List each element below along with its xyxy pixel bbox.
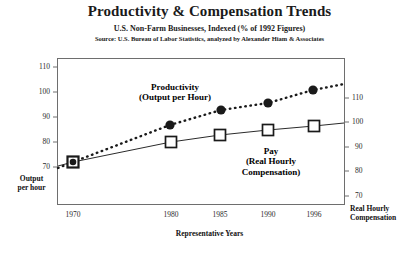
productivity-data-point-overlap (70, 159, 77, 166)
y-axis-caption-left-line2: per hour (9, 184, 54, 193)
y-axis-label-left-110: 110 (24, 62, 50, 71)
y-axis-label-left-100: 100 (24, 87, 50, 96)
productivity-series-label: Productivity (Output per Hour) (112, 82, 238, 103)
productivity-series-label-line2: (Output per Hour) (112, 92, 238, 102)
pay-data-point (263, 125, 274, 136)
y-axis-label-right-110: 110 (352, 93, 363, 102)
productivity-data-point (263, 98, 272, 107)
pay-series-label-line2: (Real Hourly (209, 156, 333, 166)
y-axis-caption-right-line2: Compensation (350, 214, 418, 223)
productivity-data-point (308, 85, 317, 94)
x-axis-label-1970: 1970 (53, 210, 93, 219)
pay-data-point (166, 137, 177, 148)
y-axis-caption-left: Output per hour (9, 175, 54, 192)
x-axis-label-1985: 1985 (200, 210, 240, 219)
y-axis-label-right-100: 100 (352, 117, 363, 126)
productivity-data-point (165, 120, 174, 129)
y-axis-label-right-70: 70 (355, 191, 363, 200)
pay-data-point (215, 130, 226, 141)
pay-data-point (309, 121, 320, 132)
x-axis-label-1980: 1980 (151, 210, 191, 219)
pay-series-label: Pay (Real Hourly Compensation) (209, 146, 333, 177)
x-axis-label-1996: 1996 (294, 210, 334, 219)
y-axis-label-right-90: 90 (355, 142, 363, 151)
y-axis-caption-right: Real Hourly Compensation (350, 205, 418, 222)
y-axis-label-left-70: 70 (24, 162, 50, 171)
y-axis-label-right-80: 80 (355, 166, 363, 175)
pay-series-label-line1: Pay (209, 146, 333, 156)
productivity-series-label-line1: Productivity (112, 82, 238, 92)
productivity-data-point (216, 105, 225, 114)
pay-series-label-line3: Compensation) (209, 167, 333, 177)
y-axis-label-left-90: 90 (24, 112, 50, 121)
x-axis-title: Representative Years (0, 229, 419, 238)
y-axis-label-left-80: 80 (24, 137, 50, 146)
x-axis-label-1990: 1990 (248, 210, 288, 219)
chart-figure: Productivity & Compensation Trends U.S. … (0, 0, 419, 254)
